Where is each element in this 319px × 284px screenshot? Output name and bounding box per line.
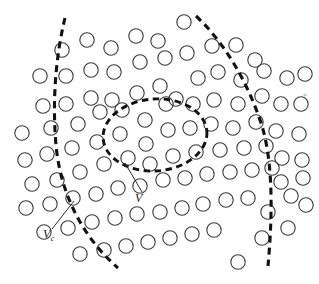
figure-container: V Vc: [0, 0, 319, 284]
diagram-canvas: V Vc: [0, 0, 319, 284]
stray-speck-mark: [303, 93, 306, 96]
